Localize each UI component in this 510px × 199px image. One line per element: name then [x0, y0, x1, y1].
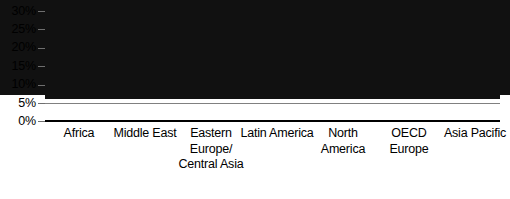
y-tick-label-30: 30% [0, 5, 36, 17]
bar-eastern-europe-central-asia [187, 64, 225, 99]
y-tick-mark [38, 66, 45, 67]
gridline-5 [45, 103, 500, 104]
bar-africa [55, 22, 93, 99]
y-tick-mark [38, 121, 45, 122]
bar-latin-america [253, 80, 291, 99]
bar-chart: 30% 25% 20% 15% 10% 5% 0% Africa [0, 0, 510, 95]
x-axis: Africa Middle East Eastern Europe/ Centr… [45, 126, 500, 199]
x-label-middle-east: Middle East [107, 126, 183, 142]
x-label-oecd-europe: OECD Europe [371, 126, 447, 157]
bar-north-america [319, 82, 357, 99]
y-tick-label-5: 5% [0, 97, 36, 109]
bar-series [45, 11, 500, 99]
y-tick-label-25: 25% [0, 23, 36, 35]
y-axis: 30% 25% 20% 15% 10% 5% 0% [0, 0, 36, 130]
y-tick-mark [38, 85, 45, 86]
plot-area [45, 11, 500, 121]
y-tick-mark [38, 11, 45, 12]
y-tick-mark [38, 103, 45, 104]
y-tick-label-20: 20% [0, 41, 36, 53]
x-label-north-america: North America [305, 126, 381, 157]
x-axis-baseline [45, 120, 500, 122]
y-tick-label-15: 15% [0, 60, 36, 72]
x-label-eastern-europe-central-asia: Eastern Europe/ Central Asia [173, 126, 249, 173]
y-tick-mark [38, 29, 45, 30]
x-label-asia-pacific: Asia Pacific [437, 126, 510, 142]
y-tick-mark [38, 48, 45, 49]
bar-middle-east [121, 59, 159, 99]
y-tick-label-10: 10% [0, 78, 36, 90]
y-tick-label-0: 0% [0, 115, 36, 127]
x-label-latin-america: Latin America [239, 126, 315, 142]
x-label-africa: Africa [41, 126, 117, 142]
